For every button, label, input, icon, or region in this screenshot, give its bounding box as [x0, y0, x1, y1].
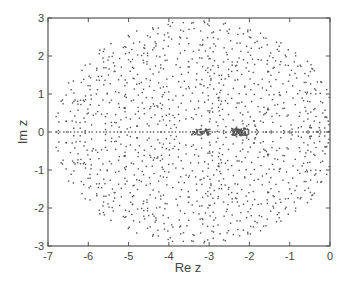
x-tick-label: -5 [124, 250, 134, 262]
scatter-plot: -7-6-5-4-3-2-10 -3-2-10123 Re z Im z [0, 0, 349, 288]
x-tick-label: -2 [245, 250, 255, 262]
y-tick-label: -3 [34, 240, 44, 252]
y-tick-label: -2 [34, 202, 44, 214]
x-tick-label: -3 [204, 250, 214, 262]
x-tick-label: -4 [164, 250, 174, 262]
x-tick-label: -6 [83, 250, 93, 262]
y-tick-label: 1 [38, 88, 44, 100]
x-axis-ticks: -7-6-5-4-3-2-10 [43, 18, 333, 262]
x-tick-label: -7 [43, 250, 53, 262]
y-tick-label: -1 [34, 164, 44, 176]
x-tick-label: -1 [285, 250, 295, 262]
y-tick-label: 3 [38, 12, 44, 24]
data-points [55, 20, 330, 243]
y-tick-label: 2 [38, 50, 44, 62]
y-axis-label: Im z [15, 120, 30, 145]
y-tick-label: 0 [38, 126, 44, 138]
x-axis-label: Re z [175, 260, 202, 275]
x-tick-label: 0 [327, 250, 333, 262]
